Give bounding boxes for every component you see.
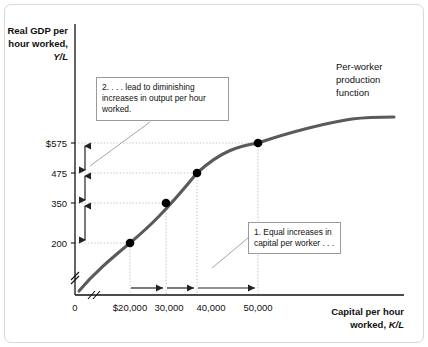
x-tick-label-origin: 0 — [72, 302, 77, 313]
y-tick-label-575: $575 — [46, 138, 67, 149]
x-axis-title-line2: worked, K/L — [349, 319, 404, 330]
gridlines-horizontal — [75, 143, 258, 243]
y-tick-label-350: 350 — [51, 198, 67, 209]
data-points — [126, 139, 263, 248]
data-point — [126, 239, 135, 248]
x-tick-label-20000: $20,000 — [113, 302, 147, 313]
data-point — [254, 139, 263, 148]
x-tick-label-50000: 50,000 — [243, 302, 272, 313]
curve-label-line3: function — [336, 87, 369, 98]
data-point — [162, 199, 171, 208]
curve-label-line1: Per-worker — [336, 61, 382, 72]
x-tick-label-40000: 40,000 — [196, 302, 225, 313]
callout-diminishing-increases: 2. . . . lead to diminishing increases i… — [96, 77, 229, 121]
curve-label-line2: production — [336, 74, 380, 85]
figure-root: $575 475 350 200 0 $20,000 30,000 40,000… — [0, 0, 428, 347]
callout-equal-increases: 1. Equal increases in capital per worker… — [248, 222, 341, 254]
leader-line-diminishing — [90, 122, 150, 166]
data-point — [193, 169, 202, 178]
leader-line-equal — [212, 238, 248, 268]
callout-leader-lines — [90, 122, 248, 268]
y-tick-label-200: 200 — [51, 238, 67, 249]
x-axis-title-line1: Capital per hour — [331, 306, 404, 317]
y-axis-title-line2: hour worked, — [8, 38, 68, 49]
chart-canvas: $575 475 350 200 0 $20,000 30,000 40,000… — [0, 0, 428, 347]
y-tick-label-475: 475 — [51, 168, 67, 179]
gridlines-vertical — [130, 143, 258, 295]
y-axis-title-line1: Real GDP per — [7, 25, 68, 36]
y-axis-title-line3: Y/L — [53, 51, 68, 62]
x-tick-label-30000: 30,000 — [154, 302, 183, 313]
